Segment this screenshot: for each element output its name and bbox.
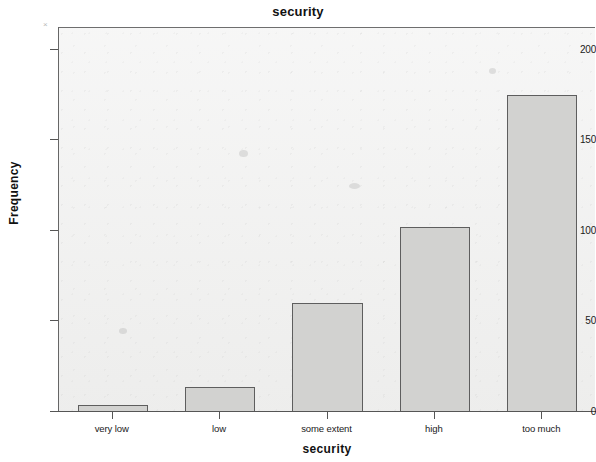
bar-high[interactable] [400, 227, 470, 412]
scan-speck [349, 183, 360, 189]
x-axis-tick-label: very low [95, 423, 129, 434]
bar-low[interactable] [185, 387, 255, 412]
scan-speck [119, 328, 127, 334]
x-axis-tick [434, 411, 435, 419]
y-axis-tick [50, 411, 58, 412]
y-axis-tick-label: 150 [550, 134, 596, 145]
y-axis-tick-label: 100 [550, 224, 596, 235]
y-axis-tick-label: 50 [550, 315, 596, 326]
x-axis-tick [112, 411, 113, 419]
bar-some-extent[interactable] [292, 303, 362, 412]
chart-figure: security × 050100150200 very lowlowsome … [0, 0, 596, 462]
x-axis-tick [541, 411, 542, 419]
x-axis-tick [327, 411, 328, 419]
x-axis-tick-label: low [212, 423, 226, 434]
y-axis-tick [50, 320, 58, 321]
y-axis-tick [50, 49, 58, 50]
x-axis-tick-label: too much [522, 423, 560, 434]
scan-artifact-mark: × [43, 20, 48, 29]
y-axis-title: Frequency [7, 133, 21, 253]
y-axis-tick-label: 0 [550, 406, 596, 417]
y-axis-tick-label: 200 [550, 43, 596, 54]
y-axis-tick [50, 230, 58, 231]
y-axis-line [58, 27, 59, 412]
scan-speck [489, 68, 496, 74]
chart-title: security [0, 4, 596, 19]
y-axis-tick [50, 139, 58, 140]
x-axis-tick-label: high [425, 423, 443, 434]
x-axis-title: security [58, 442, 596, 456]
x-axis-tick [219, 411, 220, 419]
plot-area [58, 27, 595, 412]
x-axis-tick-label: some extent [301, 423, 352, 434]
scan-speck [239, 150, 248, 157]
